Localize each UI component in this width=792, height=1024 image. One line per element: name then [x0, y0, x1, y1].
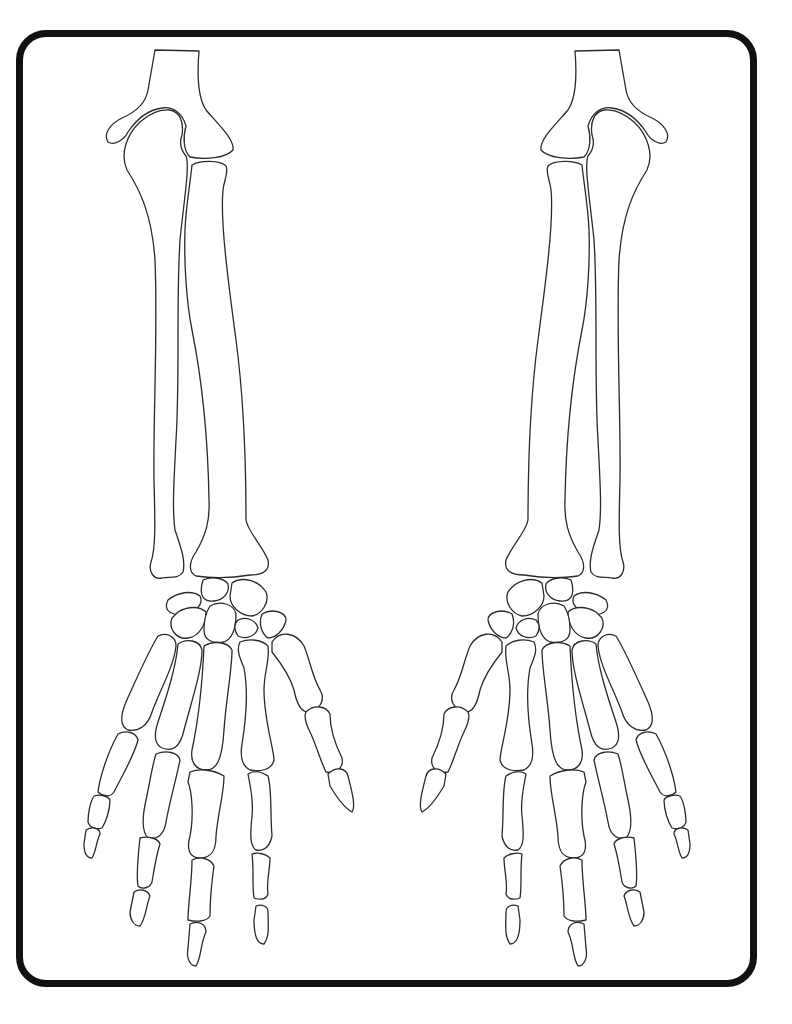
left-arm-skeleton	[84, 50, 354, 966]
skeleton-illustration	[0, 0, 792, 1024]
right-arm-skeleton	[420, 50, 690, 966]
